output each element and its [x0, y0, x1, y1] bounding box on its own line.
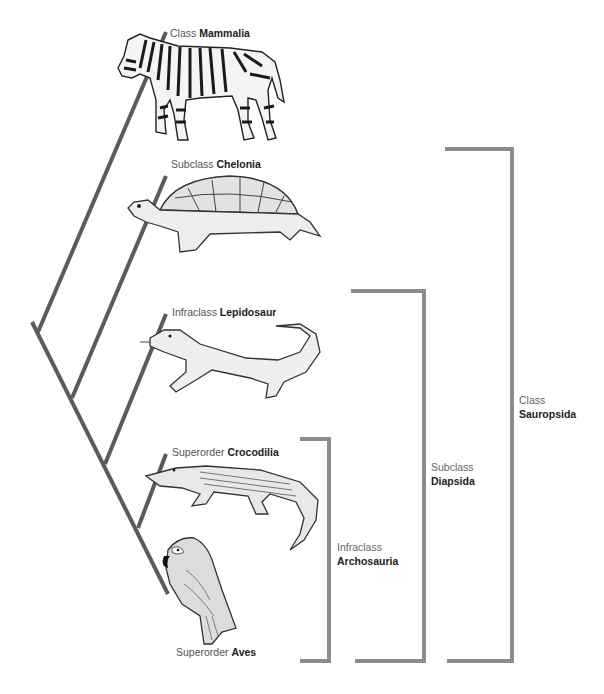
group-rank: Infraclass — [337, 540, 398, 554]
bracket-archosauria — [300, 439, 329, 661]
group-name: Sauropsida — [519, 407, 576, 421]
group-label-sauropsida: Class Sauropsida — [519, 393, 576, 421]
taxon-rank: Superorder — [172, 446, 225, 458]
taxon-label-lepidosaur: Infraclass Lepidosaur — [172, 306, 276, 319]
group-name: Archosauria — [337, 554, 398, 568]
bracket-sauropsida — [445, 149, 512, 661]
taxon-name: Aves — [231, 646, 256, 658]
taxon-label-chelonia: Subclass Chelonia — [171, 158, 261, 171]
parrot-illustration — [163, 538, 236, 644]
group-rank: Class — [519, 393, 576, 407]
lizard-illustration — [140, 324, 320, 398]
taxon-label-mammalia: Class Mammalia — [170, 27, 250, 40]
taxon-rank: Superorder — [176, 646, 229, 658]
branch-crocodilia — [138, 454, 166, 528]
taxon-name: Chelonia — [217, 158, 261, 170]
group-name: Diapsida — [431, 474, 475, 488]
taxon-label-aves: Superorder Aves — [176, 646, 256, 659]
taxon-name: Lepidosaur — [220, 306, 277, 318]
group-rank: Subclass — [431, 460, 475, 474]
turtle-illustration — [128, 176, 320, 252]
taxon-rank: Subclass — [171, 158, 214, 170]
group-label-diapsida: Subclass Diapsida — [431, 460, 475, 488]
tree-lines — [0, 0, 604, 694]
taxon-rank: Class — [170, 27, 196, 39]
taxon-rank: Infraclass — [172, 306, 217, 318]
cladogram: Class Mammalia Subclass Chelonia Infracl… — [0, 0, 604, 694]
group-label-archosauria: Infraclass Archosauria — [337, 540, 398, 568]
crocodile-illustration — [146, 466, 318, 550]
taxon-name: Crocodilia — [227, 446, 278, 458]
taxon-name: Mammalia — [199, 27, 250, 39]
bracket-diapsida — [351, 291, 424, 661]
taxon-label-crocodilia: Superorder Crocodilia — [172, 446, 279, 459]
